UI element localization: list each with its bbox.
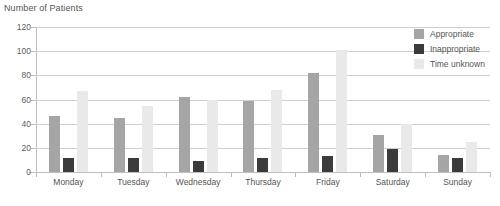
x-axis-tick-label: Friday — [316, 177, 340, 187]
x-axis-tick-mark — [36, 172, 37, 177]
legend-item-label: Time unknown — [430, 59, 485, 69]
x-axis-tick-label: Tuesday — [117, 177, 149, 187]
legend-item-label: Appropriate — [430, 29, 474, 39]
bar[interactable] — [63, 158, 74, 173]
bar[interactable] — [336, 50, 347, 172]
x-axis-tick-mark — [166, 172, 167, 177]
bar[interactable] — [179, 97, 190, 172]
x-axis-tick-label: Saturday — [376, 177, 410, 187]
bar-group — [101, 27, 166, 172]
bar[interactable] — [49, 116, 60, 172]
x-axis-tick-label: Sunday — [443, 177, 472, 187]
bar[interactable] — [438, 155, 449, 172]
bar[interactable] — [308, 73, 319, 172]
bar[interactable] — [466, 142, 477, 172]
bar[interactable] — [257, 158, 268, 173]
legend-swatch-icon — [414, 29, 424, 39]
bar[interactable] — [142, 106, 153, 172]
x-axis-line — [29, 172, 490, 173]
x-axis-tick-mark — [425, 172, 426, 177]
legend-item[interactable]: Appropriate — [414, 26, 485, 41]
y-axis-tick-label: 120 — [17, 22, 31, 32]
legend: AppropriateInappropriateTime unknown — [414, 26, 485, 71]
bar[interactable] — [193, 161, 204, 172]
y-axis-tick-label: 80 — [22, 70, 31, 80]
x-axis-tick-mark — [101, 172, 102, 177]
bar[interactable] — [271, 90, 282, 172]
y-axis-tick-label: 0 — [26, 167, 31, 177]
bar-chart: Number of Patients 020406080100120Monday… — [0, 0, 500, 206]
x-axis-tick-mark — [360, 172, 361, 177]
x-axis-tick-label: Thursday — [245, 177, 280, 187]
bar-group — [166, 27, 231, 172]
bar-group — [36, 27, 101, 172]
bar[interactable] — [207, 100, 218, 173]
bar[interactable] — [77, 91, 88, 172]
bar[interactable] — [452, 158, 463, 173]
x-axis-tick-label: Monday — [53, 177, 83, 187]
legend-item-label: Inappropriate — [430, 44, 480, 54]
y-axis-tick-label: 40 — [22, 119, 31, 129]
bar[interactable] — [401, 124, 412, 172]
bar[interactable] — [373, 135, 384, 172]
y-axis-tick-label: 60 — [22, 95, 31, 105]
legend-item[interactable]: Inappropriate — [414, 41, 485, 56]
x-axis-tick-mark — [295, 172, 296, 177]
bar-group — [295, 27, 360, 172]
x-axis-tick-mark — [231, 172, 232, 177]
bar-group — [231, 27, 296, 172]
y-axis-tick-label: 100 — [17, 46, 31, 56]
x-axis-tick-mark — [490, 172, 491, 177]
legend-swatch-icon — [414, 59, 424, 69]
y-axis-tick-label: 20 — [22, 143, 31, 153]
legend-swatch-icon — [414, 44, 424, 54]
bar[interactable] — [114, 118, 125, 172]
bar[interactable] — [243, 101, 254, 172]
legend-item[interactable]: Time unknown — [414, 56, 485, 71]
bar[interactable] — [322, 156, 333, 172]
bar[interactable] — [128, 158, 139, 173]
x-axis-tick-label: Wednesday — [176, 177, 221, 187]
bar[interactable] — [387, 149, 398, 172]
page-title: Number of Patients — [4, 3, 83, 13]
